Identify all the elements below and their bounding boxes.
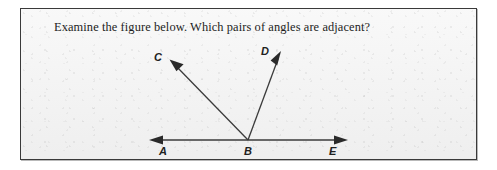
point-label-c: C [154, 51, 162, 63]
segment-BD [248, 59, 278, 140]
figure-area: C D A B E [21, 9, 477, 160]
point-label-b: B [244, 145, 252, 157]
arrowhead-C-icon [170, 60, 184, 72]
point-label-a: A [159, 145, 167, 157]
arrowhead-E-icon [334, 135, 348, 144]
question-card: Examine the figure below. Which pairs of… [20, 8, 477, 160]
point-label-e: E [329, 145, 337, 157]
worksheet-screenshot: Examine the figure below. Which pairs of… [0, 0, 497, 170]
arrowhead-A-icon [149, 135, 163, 144]
ray-BC [170, 60, 249, 141]
ray-BD [248, 51, 281, 140]
segment-BC [176, 66, 248, 140]
adjacent-angles-figure [21, 9, 477, 160]
point-label-d: D [261, 45, 269, 57]
arrowhead-D-icon [271, 51, 281, 65]
